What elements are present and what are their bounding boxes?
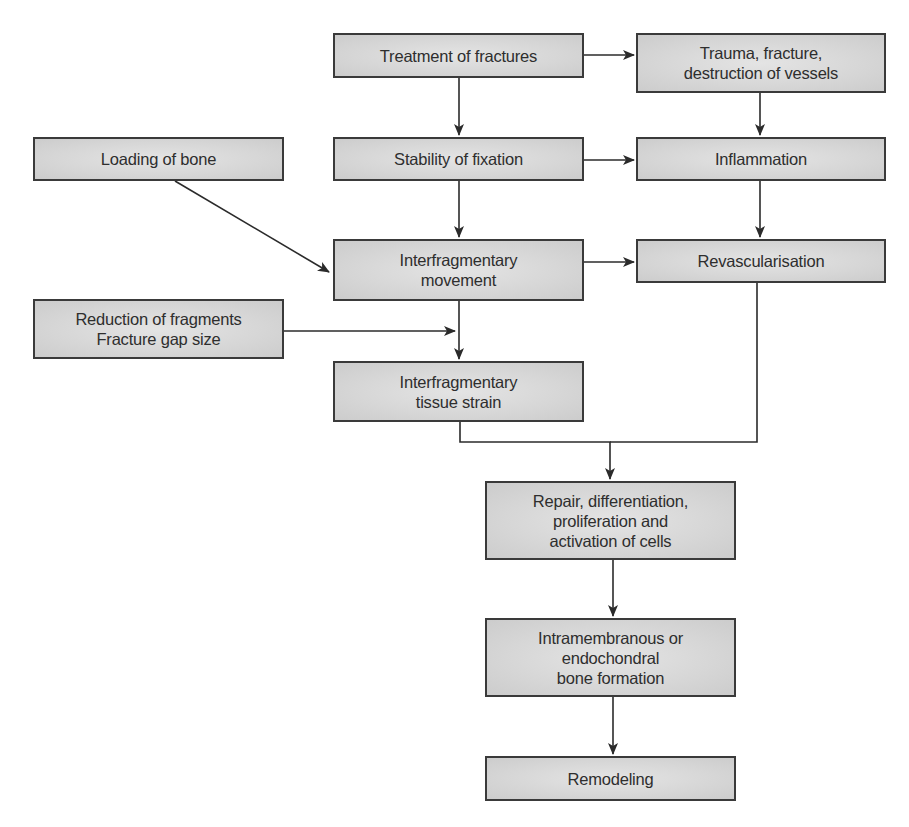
node-trauma-fracture-vessels: Trauma, fracture, destruction of vessels — [636, 33, 886, 93]
node-reduction-of-fragments: Reduction of fragments Fracture gap size — [33, 299, 284, 359]
node-treatment-of-fractures: Treatment of fractures — [333, 33, 584, 78]
node-loading-of-bone: Loading of bone — [33, 137, 284, 181]
node-revascularisation: Revascularisation — [636, 239, 886, 283]
node-remodeling: Remodeling — [485, 756, 736, 801]
edge-strain-to-repair — [460, 422, 610, 479]
node-repair-differentiation: Repair, differentiation, proliferation a… — [485, 481, 736, 560]
edge-revascularisation-to-repair — [610, 283, 757, 442]
edge-loading-to-movement — [175, 181, 329, 272]
node-inflammation: Inflammation — [636, 137, 886, 181]
node-stability-of-fixation: Stability of fixation — [333, 137, 584, 181]
node-bone-formation: Intramembranous or endochondral bone for… — [485, 618, 736, 697]
node-interfragmentary-movement: Interfragmentary movement — [333, 239, 584, 301]
fracture-healing-flowchart: Treatment of fractures Trauma, fracture,… — [0, 0, 909, 827]
node-interfragmentary-tissue-strain: Interfragmentary tissue strain — [333, 361, 584, 422]
